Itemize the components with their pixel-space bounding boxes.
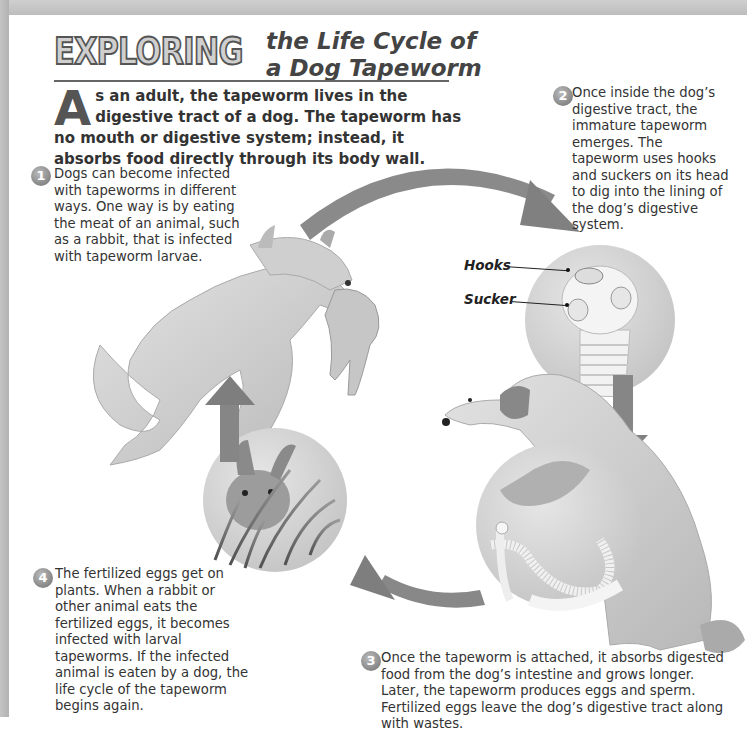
step-3-text: Once the tapeworm is attached, it absorb… bbox=[381, 650, 731, 732]
hooks-label: Hooks bbox=[464, 257, 511, 273]
carried-rabbit-illustration bbox=[325, 289, 379, 395]
arrow-step3-to-4 bbox=[350, 555, 485, 608]
sucker-pointer-dot bbox=[565, 303, 569, 307]
step-4-text: The fertilized eggs get on plants. When … bbox=[55, 566, 250, 715]
step-4-badge: 4 bbox=[33, 568, 53, 588]
step-3-badge: 3 bbox=[361, 651, 381, 671]
sucker-label: Sucker bbox=[464, 291, 516, 307]
step-1-text: Dogs can become infected with tapeworms … bbox=[54, 166, 249, 265]
step-2-badge: 2 bbox=[553, 86, 573, 106]
hooks-pointer-dot bbox=[566, 268, 570, 272]
arrow-step1-to-2 bbox=[300, 169, 580, 240]
intestine-closeup bbox=[476, 443, 640, 607]
step-1-badge: 1 bbox=[31, 166, 51, 186]
step-2-text: Once inside the dog’s digestive tract, t… bbox=[572, 85, 732, 234]
